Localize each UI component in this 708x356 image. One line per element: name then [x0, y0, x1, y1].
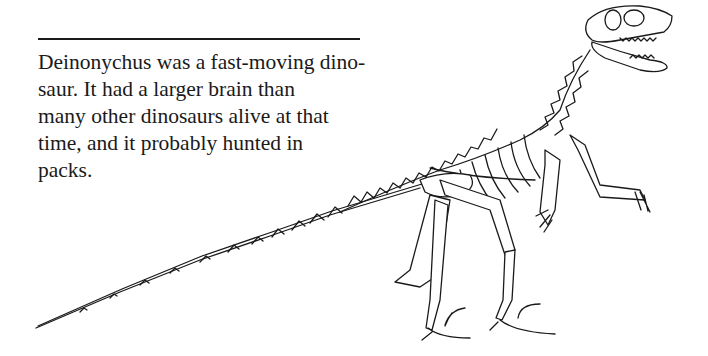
- book-page: Deinonychus was a fast-moving dino- saur…: [0, 0, 708, 356]
- tail: [36, 184, 422, 328]
- skull: [586, 6, 672, 72]
- hindlimbs: [422, 180, 555, 340]
- deinonychus-skeleton-illustration: [0, 0, 708, 356]
- forelimbs: [536, 135, 650, 232]
